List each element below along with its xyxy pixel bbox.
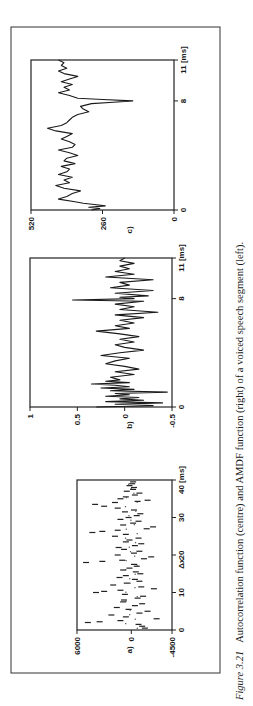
time-tick-label: 0 — [177, 627, 186, 632]
data-series-line — [73, 258, 168, 407]
panel-b-autocorrelation: 10.50-0.50811 [ms]b) — [26, 244, 186, 429]
panel-label: b) — [125, 421, 134, 429]
svg-text:Figure 3.21 Autocorrel: Figure 3.21 Autocorrelation function (ce… — [234, 242, 246, 701]
value-tick-label: 0.5 — [73, 413, 82, 425]
value-tick-label: 6000 — [73, 636, 82, 654]
time-tick-label: 8 — [177, 296, 186, 301]
panel-a-speech-segment: 60000-4500010203040 [ms]Δxa) — [73, 466, 186, 658]
value-tick-label: 0 — [121, 413, 130, 418]
plot-area — [31, 60, 174, 210]
time-tick-label: 8 — [179, 98, 188, 103]
figure-page: 52026000811 [ms]c) 10.50-0.50811 [ms]b) … — [0, 0, 253, 706]
time-tick-label: 40 [ms] — [177, 466, 186, 494]
time-tick-label: 0 — [177, 404, 186, 409]
figure-frame — [11, 27, 220, 673]
time-tick-label: 11 [ms] — [179, 46, 188, 74]
plot-area — [77, 480, 172, 630]
panel-label: c) — [125, 226, 134, 233]
time-tick-label: 11 [ms] — [177, 244, 186, 272]
panel-c-amdf: 52026000811 [ms]c) — [27, 46, 188, 234]
value-tick-label: 260 — [99, 216, 108, 230]
value-tick-label: -4500 — [168, 636, 177, 657]
caption-label: Figure 3.21 — [234, 651, 245, 701]
panel-label: a) — [125, 646, 134, 653]
x-axis-label: Δx — [177, 558, 186, 569]
value-tick-label: 520 — [27, 216, 36, 230]
time-tick-label: 30 — [177, 513, 186, 522]
figure-canvas: 52026000811 [ms]c) 10.50-0.50811 [ms]b) … — [0, 0, 253, 706]
value-tick-label: 1 — [26, 413, 35, 418]
caption-text: Autocorrelation function (centre) and AM… — [234, 242, 246, 643]
time-tick-label: 0 — [179, 207, 188, 212]
value-tick-label: -0.5 — [168, 413, 177, 427]
value-tick-label: 0 — [127, 636, 136, 641]
time-tick-label: 20 — [177, 550, 186, 559]
time-tick-label: 10 — [177, 588, 186, 597]
value-tick-label: 0 — [170, 216, 179, 221]
figure-caption: Figure 3.21 Autocorrelation function (ce… — [234, 242, 246, 701]
data-series-line — [48, 60, 133, 210]
